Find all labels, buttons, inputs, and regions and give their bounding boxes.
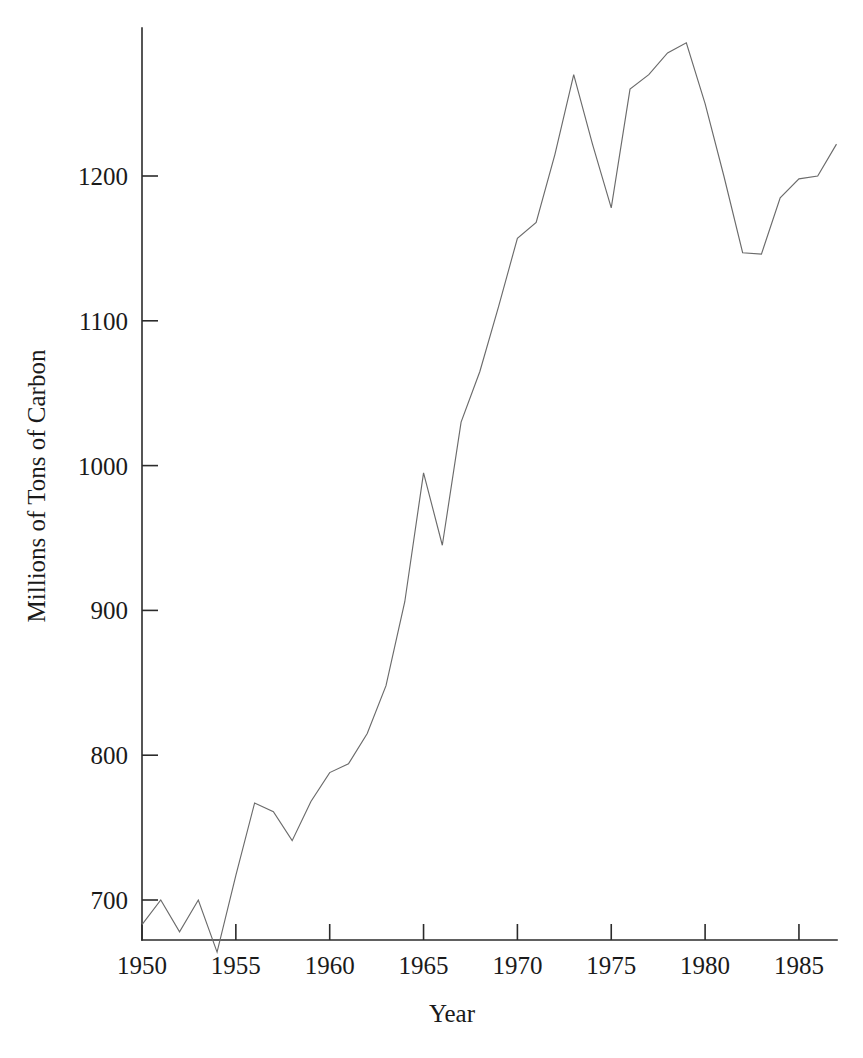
x-axis-title: Year	[429, 1000, 476, 1027]
y-tick-label-1100: 1100	[79, 308, 128, 335]
x-tick-label-1960: 1960	[305, 952, 355, 979]
x-tick-label-1975: 1975	[586, 952, 636, 979]
data-series-line	[142, 43, 836, 952]
y-axis-tick-labels: 700800900100011001200	[78, 163, 128, 914]
y-axis-ticks	[142, 176, 158, 900]
x-tick-label-1950: 1950	[117, 952, 167, 979]
y-tick-label-1200: 1200	[78, 163, 128, 190]
y-tick-label-700: 700	[91, 887, 129, 914]
x-tick-label-1965: 1965	[399, 952, 449, 979]
y-tick-label-800: 800	[91, 742, 129, 769]
y-axis-title: Millions of Tons of Carbon	[23, 349, 50, 622]
chart-figure: 700800900100011001200 195019551960196519…	[0, 0, 863, 1058]
y-tick-label-1000: 1000	[78, 453, 128, 480]
line-chart: 700800900100011001200 195019551960196519…	[0, 0, 863, 1058]
y-tick-label-900: 900	[91, 597, 129, 624]
x-tick-label-1985: 1985	[774, 952, 824, 979]
x-tick-label-1970: 1970	[492, 952, 542, 979]
x-tick-label-1980: 1980	[680, 952, 730, 979]
x-axis-tick-labels: 19501955196019651970197519801985	[117, 952, 824, 979]
x-axis-ticks	[142, 924, 799, 940]
x-tick-label-1955: 1955	[211, 952, 261, 979]
